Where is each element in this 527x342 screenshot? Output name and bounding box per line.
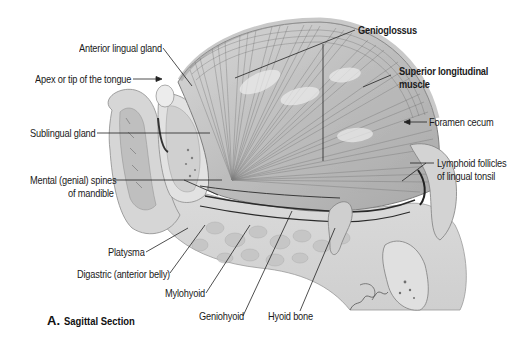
label-mental-spines-line1: Mental (genial) spines (30, 174, 117, 186)
label-mylohyoid: Mylohyoid (165, 287, 205, 299)
label-hyoid-bone: Hyoid bone (268, 310, 313, 322)
label-lymphoid-follicles-line1: Lymphoid follicles (437, 157, 506, 169)
label-lymphoid-follicles-line2: of lingual tonsil (437, 170, 495, 182)
label-sublingual-gland: Sublingual gland (30, 127, 96, 139)
figure-caption: A. Sagittal Section (47, 311, 143, 329)
label-superior-longitudinal-line2: muscle (399, 78, 430, 90)
label-genioglossus: Genioglossus (358, 24, 417, 36)
label-anterior-lingual-gland: Anterior lingual gland (79, 42, 162, 54)
label-geniohyoid: Geniohyoid (199, 310, 244, 322)
label-mental-spines-line2: of mandible (68, 187, 114, 199)
label-superior-longitudinal-line1: Superior longitudinal (399, 65, 488, 77)
tongue-body (178, 20, 439, 222)
caption-letter: A. (47, 313, 60, 328)
label-digastric: Digastric (anterior belly) (77, 268, 170, 280)
label-platysma: Platysma (108, 246, 145, 258)
label-foramen-cecum: Foramen cecum (429, 116, 493, 128)
label-apex-of-tongue: Apex or tip of the tongue (35, 73, 131, 85)
caption-text: Sagittal Section (64, 315, 135, 327)
